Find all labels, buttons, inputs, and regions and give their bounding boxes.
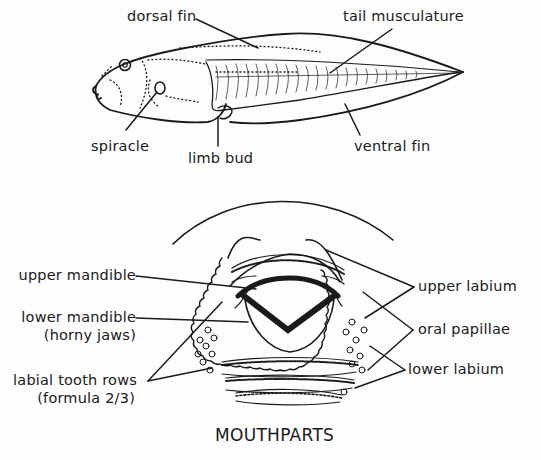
tadpole-outline — [93, 33, 463, 123]
label-dorsal-fin: dorsal fin — [127, 8, 196, 25]
label-lower-labium: lower labium — [408, 361, 504, 378]
label-upper-mandible: upper mandible — [0, 267, 136, 284]
mouthparts-title: MOUTHPARTS — [215, 425, 334, 445]
tadpole-diagram: dorsal fin tail musculature spiracle lim… — [0, 0, 541, 460]
mouthparts-outline — [173, 201, 393, 370]
label-spiracle: spiracle — [91, 138, 149, 155]
label-upper-labium: upper labium — [418, 278, 517, 295]
tail-myomeres — [216, 64, 460, 100]
label-lower-mandible: lower mandible — [0, 309, 136, 326]
label-labial-tooth-rows-note: (formula 2/3) — [0, 390, 135, 407]
label-labial-tooth-rows: labial tooth rows — [0, 372, 137, 389]
label-ventral-fin: ventral fin — [354, 138, 430, 155]
label-lower-mandible-note: (horny jaws) — [0, 327, 136, 344]
label-oral-papillae: oral papillae — [418, 321, 510, 338]
label-limb-bud: limb bud — [188, 150, 253, 167]
label-tail-musculature: tail musculature — [343, 8, 464, 25]
